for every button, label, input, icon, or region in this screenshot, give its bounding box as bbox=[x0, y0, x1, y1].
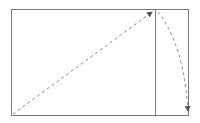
diagram-canvas bbox=[0, 0, 200, 123]
outer-rectangle bbox=[12, 10, 189, 116]
diagonal-dashed-arrow bbox=[13, 12, 152, 114]
curved-dashed-arrow bbox=[158, 12, 188, 111]
